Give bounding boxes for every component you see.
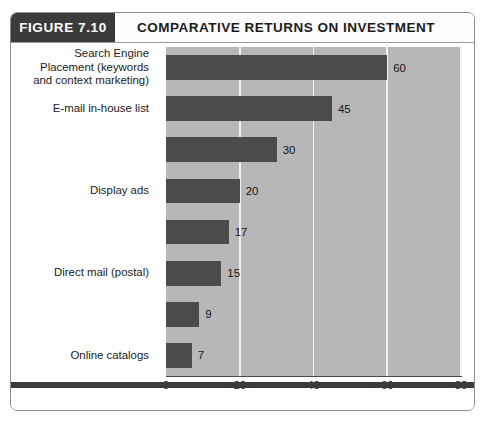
bar[interactable]: [166, 261, 221, 286]
bar-value-label: 9: [205, 308, 211, 320]
category-label: Search Engine Placement (keywords and co…: [33, 47, 149, 88]
bottom-divider: [11, 382, 474, 388]
category-label: Display ads: [90, 184, 149, 198]
bar-slot: 30: [166, 137, 461, 162]
bar-value-label: 20: [246, 185, 259, 197]
plot-area: 60453020171597: [166, 47, 461, 376]
bar-value-label: 60: [393, 62, 406, 74]
bar-slot: 60: [166, 55, 461, 80]
bar-slot: 7: [166, 343, 461, 368]
bar[interactable]: [166, 96, 332, 121]
bar[interactable]: [166, 343, 192, 368]
bar[interactable]: [166, 137, 277, 162]
bar-slot: 9: [166, 302, 461, 327]
bar-slot: 45: [166, 96, 461, 121]
bar[interactable]: [166, 179, 240, 204]
category-label: E-mail in-house list: [53, 102, 149, 116]
bar-slot: 17: [166, 220, 461, 245]
figure-title: COMPARATIVE RETURNS ON INVESTMENT: [115, 13, 474, 42]
x-axis-line: [166, 376, 462, 377]
bar[interactable]: [166, 302, 199, 327]
category-label: Direct mail (postal): [54, 266, 149, 280]
figure-number-label: FIGURE 7.10: [11, 13, 115, 42]
category-label: Online catalogs: [70, 349, 149, 363]
bar-value-label: 15: [227, 267, 240, 279]
bar-value-label: 30: [283, 144, 296, 156]
bar-slot: 15: [166, 261, 461, 286]
category-axis: Search Engine Placement (keywords and co…: [11, 47, 157, 376]
bar-slot: 20: [166, 179, 461, 204]
chart-body: Search Engine Placement (keywords and co…: [11, 43, 474, 380]
bar-value-label: 45: [338, 103, 351, 115]
bar-value-label: 7: [198, 349, 204, 361]
figure-header: FIGURE 7.10 COMPARATIVE RETURNS ON INVES…: [11, 13, 474, 42]
figure-frame: FIGURE 7.10 COMPARATIVE RETURNS ON INVES…: [10, 12, 475, 411]
bar-value-label: 17: [235, 226, 248, 238]
bar[interactable]: [166, 220, 229, 245]
bar[interactable]: [166, 55, 387, 80]
caption-strip: [11, 391, 474, 411]
